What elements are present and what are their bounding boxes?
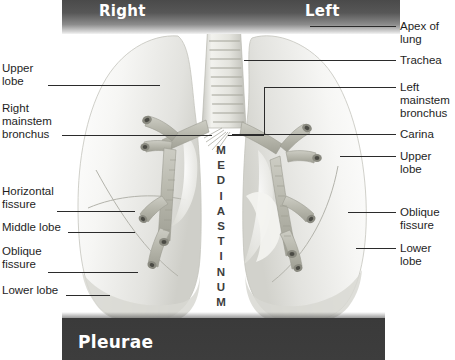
label-oblique-fissure-right: Oblique fissure [2,245,42,271]
leader-lower-lobe-left [356,248,396,249]
leader-left-mainstem-bronchus [264,87,396,88]
mediastinum-letter: A [212,204,230,219]
leader-right-mainstem-bronchus [62,135,212,136]
label-horizontal-fissure: Horizontal fissure [2,185,54,211]
leader-oblique-fissure-left [348,212,396,213]
mediastinum-vertical-label: MEDIASTINUM [212,143,230,310]
mediastinum-letter: D [212,173,230,188]
leader-upper-lobe-right [48,85,160,86]
leader-oblique-fissure-right [48,272,138,273]
leader-left-mainstem-bronchus-drop [264,87,265,135]
header-label-left: Left [305,2,340,20]
leader-horizontal-fissure [57,211,135,212]
label-upper-lobe-left: Upper lobe [400,150,431,176]
mediastinum-letter: U [212,280,230,295]
label-apex-of-lung: Apex of lung [400,20,439,46]
leader-apex-of-lung [310,26,396,27]
lung-anatomy-figure: Right Left Pleurae MEDIASTINUM Upper lob… [0,0,455,360]
label-lower-lobe-left: Lower lobe [400,242,431,268]
mediastinum-letter: M [212,143,230,158]
label-middle-lobe: Middle lobe [2,221,61,234]
mediastinum-letter: T [212,234,230,249]
label-carina: Carina [400,128,434,141]
leader-lower-lobe-right [66,295,110,296]
label-oblique-fissure-left: Oblique fissure [400,206,440,232]
label-upper-lobe-right: Upper lobe [2,62,33,88]
mediastinum-letter: E [212,158,230,173]
mediastinum-letter: I [212,249,230,264]
label-trachea: Trachea [400,54,442,67]
mediastinum-letter: S [212,219,230,234]
right-lung [78,36,201,326]
footer-label-pleurae: Pleurae [78,332,153,352]
left-lung [243,36,367,326]
leader-upper-lobe-left [340,156,396,157]
label-right-mainstem-bronchus: Right mainstem bronchus [2,102,52,142]
leader-trachea [244,60,396,61]
leader-middle-lobe [68,232,135,233]
leader-carina [232,134,396,135]
label-left-mainstem-bronchus: Left mainstem bronchus [400,81,450,121]
mediastinum-letter: I [212,189,230,204]
mediastinum-letter: N [212,265,230,280]
leader-left-mainstem-bronchus-tip [228,135,264,136]
label-lower-lobe-right: Lower lobe [2,284,58,297]
mediastinum-letter: M [212,295,230,310]
header-label-right: Right [99,2,146,20]
